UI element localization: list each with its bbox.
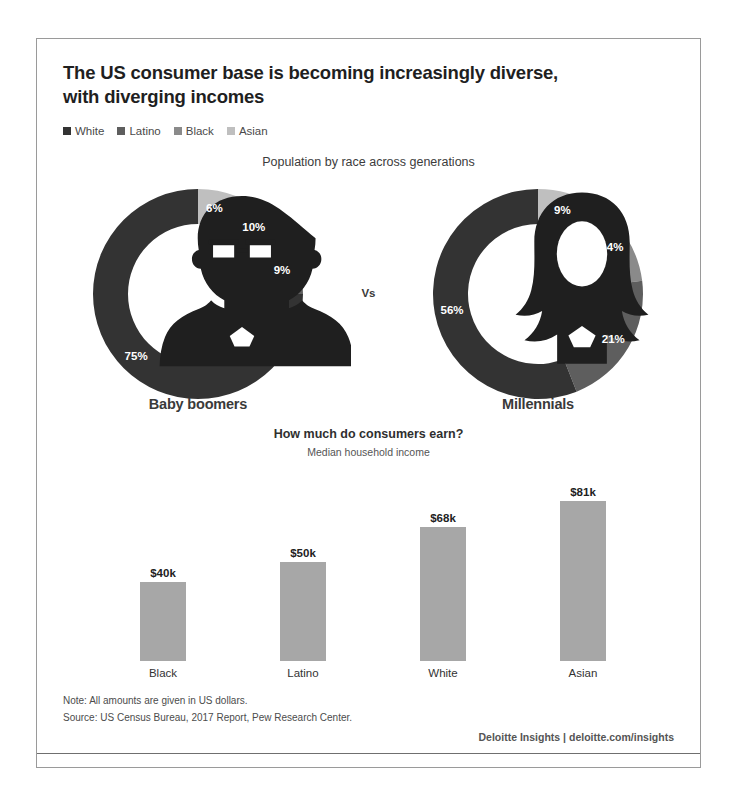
chart-legend: White Latino Black Asian bbox=[63, 125, 268, 137]
income-bar-chart: $40k Black $50k Latino $68k White $81k A… bbox=[93, 464, 653, 679]
legend-label-black: Black bbox=[186, 125, 214, 137]
bar-value-asian: $81k bbox=[570, 486, 596, 498]
footnote-source: Source: US Census Bureau, 2017 Report, P… bbox=[63, 712, 352, 723]
bar-column-asian: $81k Asian bbox=[540, 464, 626, 679]
bar-section-subtitle: Median household income bbox=[37, 446, 700, 458]
footnote-note: Note: All amounts are given in US dollar… bbox=[63, 695, 248, 706]
bar-column-black: $40k Black bbox=[120, 464, 206, 679]
footer-divider bbox=[37, 753, 700, 754]
slice-label-latino-millennials: 21% bbox=[602, 333, 625, 345]
legend-swatch-asian bbox=[227, 127, 235, 135]
bar-rect-asian bbox=[560, 501, 606, 661]
infographic-frame: The US consumer base is becoming increas… bbox=[36, 38, 701, 768]
slice-label-white-millennials: 56% bbox=[441, 304, 464, 316]
bar-section-title: How much do consumers earn? bbox=[37, 427, 700, 441]
slice-label-white-boomers: 75% bbox=[125, 350, 148, 362]
slice-label-latino-boomers: 9% bbox=[274, 264, 291, 276]
legend-label-latino: Latino bbox=[129, 125, 160, 137]
donut-charts-row: Baby boomers 6% 10% 9% 75% Vs bbox=[37, 181, 700, 411]
donut-svg-millennials bbox=[429, 185, 647, 403]
legend-swatch-latino bbox=[117, 127, 125, 135]
bar-value-latino: $50k bbox=[290, 547, 316, 559]
bar-category-white: White bbox=[428, 667, 457, 679]
slice-label-asian-millennials: 9% bbox=[554, 204, 571, 216]
bar-column-white: $68k White bbox=[400, 464, 486, 679]
slice-label-black-millennials: 14% bbox=[600, 241, 623, 253]
deloitte-attribution: Deloitte Insights | deloitte.com/insight… bbox=[479, 731, 674, 743]
legend-swatch-white bbox=[63, 127, 71, 135]
legend-item-black: Black bbox=[174, 125, 214, 137]
bar-value-black: $40k bbox=[150, 567, 176, 579]
page-title: The US consumer base is becoming increas… bbox=[63, 61, 663, 110]
bar-rect-latino bbox=[280, 562, 326, 661]
bar-value-white: $68k bbox=[430, 512, 456, 524]
legend-item-latino: Latino bbox=[117, 125, 160, 137]
legend-label-asian: Asian bbox=[239, 125, 268, 137]
legend-swatch-black bbox=[174, 127, 182, 135]
page-title-line-1: The US consumer base is becoming increas… bbox=[63, 62, 558, 83]
page-title-line-2: with diverging incomes bbox=[63, 85, 663, 109]
donut-chart-millennials: Millennials 9% 14% 21% 56% bbox=[429, 185, 647, 403]
legend-label-white: White bbox=[75, 125, 104, 137]
legend-item-white: White bbox=[63, 125, 104, 137]
bar-rect-white bbox=[420, 527, 466, 661]
legend-item-asian: Asian bbox=[227, 125, 268, 137]
bar-category-latino: Latino bbox=[287, 667, 318, 679]
bar-category-black: Black bbox=[149, 667, 177, 679]
bar-category-asian: Asian bbox=[569, 667, 598, 679]
slice-label-asian-boomers: 6% bbox=[206, 202, 223, 214]
slice-label-black-boomers: 10% bbox=[242, 221, 265, 233]
bar-rect-black bbox=[140, 582, 186, 661]
donut-section-title: Population by race across generations bbox=[37, 155, 700, 169]
bar-column-latino: $50k Latino bbox=[260, 464, 346, 679]
